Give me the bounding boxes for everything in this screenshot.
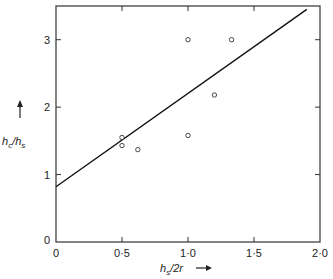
data-point (120, 143, 124, 147)
y-axis-arrow-icon (17, 100, 23, 118)
data-points (120, 38, 234, 152)
y-tick-label: 3 (44, 34, 50, 46)
fit-line (56, 9, 307, 186)
x-axis-label: hs/2r (160, 262, 184, 277)
data-point (229, 38, 233, 42)
y-tick-label: 2 (44, 101, 50, 113)
data-point (212, 93, 216, 97)
x-tick-label: 0 (53, 247, 59, 259)
axis-ticks: 00·51·01·52·00123 (44, 6, 328, 259)
scatter-chart: 00·51·01·52·00123 hc/hs hs/2r (0, 0, 333, 279)
y-axis-label: hc/hs (2, 135, 25, 150)
data-point (136, 147, 140, 151)
x-tick-label: 1·5 (246, 247, 262, 259)
data-point (186, 133, 190, 137)
y-tick-label: 0 (44, 234, 50, 246)
x-tick-label: 0·5 (114, 247, 130, 259)
x-tick-label: 2·0 (312, 247, 328, 259)
x-axis-arrow-icon (196, 265, 212, 271)
data-point (120, 135, 124, 139)
y-tick-label: 1 (44, 169, 50, 181)
x-tick-label: 1·0 (180, 247, 196, 259)
data-point (186, 38, 190, 42)
